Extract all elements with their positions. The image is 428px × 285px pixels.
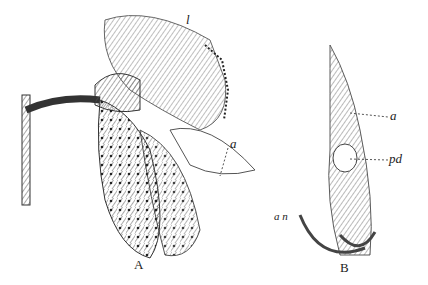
label-a-panel-b: a xyxy=(390,108,397,124)
caption-b: B xyxy=(340,260,349,276)
label-a-panel-a: a xyxy=(230,136,237,152)
stem xyxy=(22,95,100,205)
column-B xyxy=(300,45,375,255)
label-pd: pd xyxy=(389,151,402,167)
orchid-illustration xyxy=(0,0,428,285)
label-an: a n xyxy=(274,210,288,222)
caption-a: A xyxy=(134,257,143,273)
label-l: l xyxy=(186,12,190,28)
